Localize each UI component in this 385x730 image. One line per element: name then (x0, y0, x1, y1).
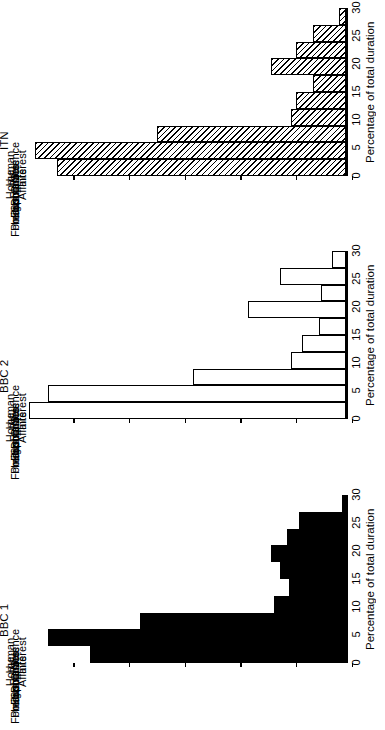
bar-row (14, 579, 346, 596)
bar-row (14, 42, 346, 59)
category-axis-labels: Science Human Interest Crime Home Affair… (14, 178, 348, 240)
axis-tick-label: 20 (351, 56, 362, 72)
axis-tick-label: 15 (351, 571, 362, 587)
bar-row (14, 629, 346, 646)
bar-row (14, 495, 346, 512)
bar-bbc1-foreign (90, 646, 346, 663)
bar-bbc1-crime (287, 529, 346, 546)
axis-tick-label: 25 (351, 28, 362, 44)
bar-row (14, 268, 346, 285)
bar-bbc2-economics (291, 352, 347, 369)
bar-row (14, 402, 346, 419)
bar-row (14, 545, 346, 562)
bar-itn-human-interest (313, 25, 346, 42)
category-axis-labels: Science Human Interest Crime Home Affair… (14, 421, 348, 483)
bar-row (14, 385, 346, 402)
plot-area-bbc1 (14, 495, 348, 663)
bar-row (14, 92, 346, 109)
bar-itn-crime (296, 42, 346, 59)
axis-tick-label: 10 (351, 112, 362, 128)
bar-row (14, 369, 346, 386)
bar-bbc2-science (332, 251, 346, 268)
bar-itn-science (339, 8, 347, 25)
bar-row (14, 613, 346, 630)
bar-itn-politics (35, 142, 347, 159)
figure-root: ITN 051015202530 Percentage of total dur… (0, 0, 385, 730)
bar-row (14, 512, 346, 529)
axis-tick-label: 30 (351, 0, 362, 16)
bar-bbc1-industrial (140, 613, 346, 630)
bar-bbc2-politics (48, 385, 346, 402)
bar-row (14, 318, 346, 335)
bar-bbc1-sport (289, 579, 347, 596)
bar-row (14, 109, 346, 126)
axis-tick-label: 5 (351, 627, 362, 643)
bar-row (14, 301, 346, 318)
bar-itn-economics (291, 109, 347, 126)
bar-bbc1-politics (48, 629, 346, 646)
bar-row (14, 596, 346, 613)
bar-row (14, 285, 346, 302)
bar-bbc2-sport (302, 335, 347, 352)
category-label: Foreign (10, 443, 22, 480)
bar-row (14, 529, 346, 546)
axis-tick-label: 5 (351, 383, 362, 399)
bar-bbc2-foreign (29, 402, 346, 419)
axis-tick-label: 0 (351, 168, 362, 184)
bar-row (14, 562, 346, 579)
bar-row (14, 142, 346, 159)
bar-row (14, 58, 346, 75)
bar-itn-industrial (157, 126, 346, 143)
category-axis-labels: Science Human Interest Crime Home Affair… (14, 665, 348, 727)
bar-row (14, 352, 346, 369)
bar-row (14, 126, 346, 143)
axis-tick-label: 20 (351, 543, 362, 559)
bar-row (14, 25, 346, 42)
axis-tick-label: 25 (351, 271, 362, 287)
axis-tick-label: 15 (351, 84, 362, 100)
category-label: Foreign (10, 687, 22, 724)
panel-bbc2: BBC 2 051015202530 Percentage of total d… (0, 243, 385, 486)
category-label: Foreign (10, 200, 22, 237)
bar-itn-home-affairs (271, 58, 347, 75)
plot-area-bbc2 (14, 251, 348, 419)
bar-group-itn (14, 8, 346, 176)
bar-bbc1-disasters (280, 562, 347, 579)
axis-tick-label: 10 (351, 355, 362, 371)
bar-row (14, 335, 346, 352)
bar-bbc1-home-affairs (271, 545, 347, 562)
plot-area-itn (14, 8, 348, 176)
value-axis-title: Percentage of total duration (362, 495, 378, 663)
panel-itn: ITN 051015202530 Percentage of total dur… (0, 0, 385, 243)
bar-bbc1-economics (274, 596, 346, 613)
bar-row (14, 251, 346, 268)
value-axis-title: Percentage of total duration (362, 8, 378, 176)
bar-row (14, 8, 346, 25)
value-axis-title: Percentage of total duration (362, 251, 378, 419)
bar-itn-sport (296, 92, 346, 109)
axis-tick-label: 0 (351, 411, 362, 427)
axis-tick-label: 5 (351, 140, 362, 156)
bar-bbc2-crime (321, 285, 347, 302)
axis-tick-label: 30 (351, 487, 362, 503)
panel-bbc1: BBC 1 051015202530 Percentage of total d… (0, 487, 385, 730)
bar-bbc2-home-affairs (248, 301, 346, 318)
bar-bbc2-disasters (319, 318, 347, 335)
bar-bbc2-industrial (193, 369, 347, 386)
bar-group-bbc2 (14, 251, 346, 419)
axis-tick-label: 0 (351, 655, 362, 671)
axis-tick-label: 10 (351, 599, 362, 615)
bar-itn-foreign (57, 159, 346, 176)
bar-bbc2-human-interest (280, 268, 347, 285)
bar-bbc1-human-interest (299, 512, 347, 529)
bar-row (14, 159, 346, 176)
axis-tick-label: 25 (351, 515, 362, 531)
axis-tick-label: 15 (351, 327, 362, 343)
bar-row (14, 75, 346, 92)
bar-row (14, 646, 346, 663)
axis-tick-label: 30 (351, 243, 362, 259)
bar-itn-disasters (313, 75, 346, 92)
bar-group-bbc1 (14, 495, 346, 663)
axis-tick-label: 20 (351, 299, 362, 315)
